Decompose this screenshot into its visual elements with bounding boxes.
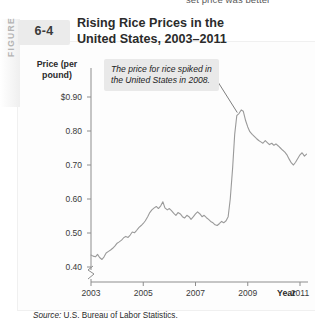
figure-title-line-2: United States, 2003–2011 [77, 32, 292, 48]
source-note: Source: U.S. Bureau of Labor Statistics. [33, 311, 178, 320]
y-axis-tick-label: 0.60 [40, 194, 82, 204]
figure-tab-label: FIGURE [6, 1, 16, 73]
callout-annotation: The price for rice spiked in the United … [104, 59, 219, 91]
x-axis-title: Year [277, 288, 296, 298]
x-axis-tick-label: 2003 [71, 288, 111, 298]
bleed-text-above: set price was better [186, 0, 270, 5]
page-title: Rising Rice Prices in the United States,… [77, 16, 292, 47]
y-axis-tick-label: 0.70 [40, 160, 82, 170]
source-text: U.S. Bureau of Labor Statistics. [64, 311, 178, 320]
x-axis-tick-label: 2005 [123, 288, 163, 298]
x-axis-tick-label: 2009 [228, 288, 268, 298]
figure-number: 6-4 [18, 24, 70, 38]
y-axis-title: Price (per pound) [26, 59, 88, 81]
y-axis-tick-label: 0.40 [40, 262, 82, 272]
source-prefix: Source: [33, 311, 61, 320]
y-axis-tick-label: 0.80 [40, 126, 82, 136]
x-axis-tick-label: 2007 [176, 288, 216, 298]
y-axis-tick-label: $0.90 [40, 92, 82, 102]
y-axis-title-text: Price (per pound) [37, 59, 78, 80]
y-axis-tick-label: 0.50 [40, 228, 82, 238]
figure-title-line-1: Rising Rice Prices in the [77, 16, 292, 32]
